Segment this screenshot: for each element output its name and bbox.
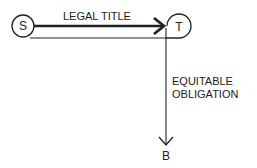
node-s-label: S — [13, 19, 33, 33]
legal-title-label: LEGAL TITLE — [63, 10, 131, 23]
obligation-label: OBLIGATION — [172, 88, 238, 101]
equitable-label: EQUITABLE — [172, 75, 233, 88]
node-b-label: B — [156, 149, 176, 163]
node-t-label: T — [169, 20, 189, 34]
